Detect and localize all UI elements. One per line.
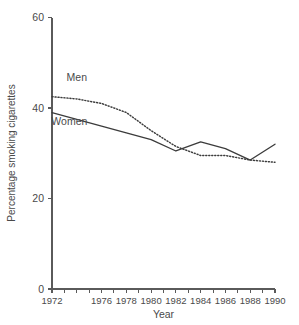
x-tick-label-1988: 1988 <box>240 295 261 306</box>
x-tick-label-1984: 1984 <box>190 295 211 306</box>
x-axis-title: Year <box>153 308 175 320</box>
x-tick-label-1990: 1990 <box>264 295 285 306</box>
x-tick-label-1972: 1972 <box>41 295 62 306</box>
series-line-men <box>52 97 275 163</box>
y-axis-tick-labels: 0204060 <box>32 11 44 295</box>
series-label-women: Women <box>51 115 87 127</box>
x-tick-label-1982: 1982 <box>165 295 186 306</box>
x-axis-tick-labels: 197219761978198019821984198619881990 <box>41 295 285 306</box>
chart-canvas: 0204060 19721976197819801982198419861988… <box>0 0 299 325</box>
series-label-men: Men <box>67 71 88 83</box>
x-tick-label-1978: 1978 <box>116 295 137 306</box>
x-tick-label-1980: 1980 <box>141 295 162 306</box>
x-axis-ticks <box>52 289 275 293</box>
x-tick-label-1976: 1976 <box>91 295 112 306</box>
y-tick-label-60: 60 <box>32 11 44 23</box>
y-tick-label-40: 40 <box>32 102 44 114</box>
y-tick-label-20: 20 <box>32 192 44 204</box>
y-axis-ticks <box>48 18 52 290</box>
series-inline-labels: MenWomen <box>51 71 87 127</box>
y-tick-label-0: 0 <box>38 283 44 295</box>
x-tick-label-1986: 1986 <box>215 295 236 306</box>
line-chart-figure: 0204060 19721976197819801982198419861988… <box>0 0 299 325</box>
y-axis-title: Percentage smoking cigarettes <box>6 84 17 221</box>
